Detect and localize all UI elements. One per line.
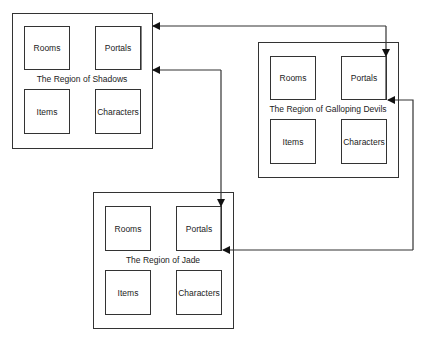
node-devils-characters: Characters: [341, 119, 387, 164]
node-label: Items: [118, 288, 139, 298]
node-label: Portals: [186, 224, 212, 234]
node-jade-items: Items: [105, 270, 151, 315]
node-label: Rooms: [280, 73, 307, 83]
node-jade-portals: Portals: [176, 206, 222, 251]
node-label: Items: [37, 107, 58, 117]
region-title-shadows: The Region of Shadows: [37, 74, 128, 84]
node-shadows-rooms: Rooms: [24, 26, 70, 70]
node-label: Characters: [178, 288, 220, 298]
node-shadows-items: Items: [24, 89, 70, 134]
diagram-canvas: Rooms Portals The Region of Shadows Item…: [0, 0, 428, 341]
node-label: Characters: [343, 137, 385, 147]
node-jade-characters: Characters: [176, 270, 222, 315]
region-title-jade: The Region of Jade: [126, 255, 200, 265]
node-shadows-portals: Portals: [95, 26, 141, 70]
node-devils-rooms: Rooms: [270, 56, 316, 100]
node-label: Portals: [105, 43, 131, 53]
node-label: Characters: [97, 107, 139, 117]
node-shadows-characters: Characters: [95, 89, 141, 134]
node-devils-items: Items: [270, 119, 316, 164]
node-label: Rooms: [115, 224, 142, 234]
node-label: Items: [283, 137, 304, 147]
region-title-galloping-devils: The Region of Galloping Devils: [269, 104, 386, 114]
node-label: Rooms: [34, 43, 61, 53]
node-devils-portals: Portals: [341, 56, 387, 100]
node-label: Portals: [351, 73, 377, 83]
node-jade-rooms: Rooms: [105, 206, 151, 251]
